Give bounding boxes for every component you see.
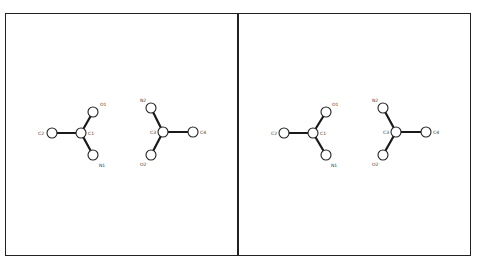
atom-label: N2 (372, 98, 378, 103)
atom-label: C1 (88, 131, 94, 136)
atom-label: C3 (383, 130, 389, 135)
atom-n2 (378, 103, 388, 113)
panel-right: C2C1O1N1N2C3C4O2 (271, 98, 439, 168)
atom-label: C3 (150, 130, 156, 135)
atom-n1 (321, 150, 331, 160)
atom-o1 (321, 107, 331, 117)
atom-label: N2 (140, 98, 146, 103)
atom-label: O1 (100, 102, 107, 107)
atom-label: O1 (332, 102, 339, 107)
atom-c3 (158, 127, 168, 137)
atom-c4 (188, 127, 198, 137)
panel-left: C2C1O1N1N2C3C4O2 (38, 98, 206, 168)
atom-label: C2 (271, 131, 277, 136)
atom-c4 (421, 127, 431, 137)
atom-n1 (88, 150, 98, 160)
atom-o2 (378, 150, 388, 160)
atom-o2 (146, 150, 156, 160)
atom-label: O2 (140, 162, 147, 167)
atom-label: C4 (200, 130, 206, 135)
atom-label: C4 (433, 130, 439, 135)
atom-label: C1 (320, 131, 326, 136)
atom-c1 (308, 128, 318, 138)
atom-o1 (88, 107, 98, 117)
atom-label: O2 (372, 162, 379, 167)
atom-label: N1 (331, 163, 337, 168)
molecule-diagram: C2C1O1N1N2C3C4O2 C2C1O1N1N2C3C4O2 (0, 0, 479, 259)
atom-label: N1 (99, 163, 105, 168)
atom-label: C2 (38, 131, 44, 136)
atom-c2 (47, 128, 57, 138)
atom-c2 (279, 128, 289, 138)
atom-n2 (146, 103, 156, 113)
atom-c3 (391, 127, 401, 137)
atom-c1 (76, 128, 86, 138)
